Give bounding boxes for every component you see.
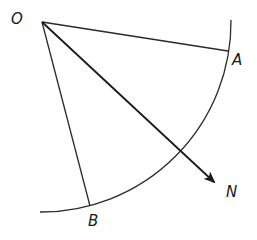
label-A: A xyxy=(232,53,242,68)
segment-OA xyxy=(42,22,228,51)
sector-diagram xyxy=(0,0,257,240)
label-O: O xyxy=(11,12,23,27)
label-B: B xyxy=(88,214,98,229)
label-N: N xyxy=(226,185,237,200)
bearing-arrow-ON xyxy=(42,22,214,182)
arc-AB xyxy=(40,20,231,212)
segment-OB xyxy=(42,22,90,206)
